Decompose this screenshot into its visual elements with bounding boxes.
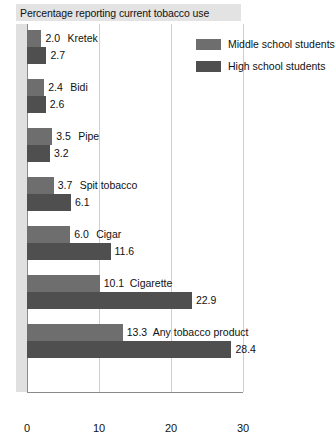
- bar-value-high-school: 2.6: [50, 96, 65, 113]
- category-label: Cigarette: [130, 275, 173, 292]
- category-label: Any tobacco product: [153, 324, 249, 341]
- bar-group: 10.122.9Cigarette: [27, 275, 321, 309]
- x-tick-label-0: 0: [24, 422, 30, 434]
- bar-value-high-school: 28.4: [235, 341, 255, 358]
- bar-value-middle-school: 2.4: [48, 79, 63, 96]
- bar-high-school: [27, 194, 71, 211]
- plot-area: 2.02.7Kretek2.42.6Bidi3.53.2Pipe3.76.1Sp…: [0, 24, 321, 394]
- bar-value-middle-school: 6.0: [74, 226, 89, 243]
- bar-value-middle-school: 13.3: [127, 324, 147, 341]
- legend-label-high-school: High school students: [228, 58, 325, 75]
- bar-high-school: [27, 47, 46, 64]
- bar-middle-school: [27, 324, 123, 341]
- bar-value-middle-school: 3.5: [56, 128, 71, 145]
- bar-value-middle-school: 3.7: [58, 177, 73, 194]
- bar-high-school: [27, 243, 111, 260]
- bar-middle-school: [27, 30, 41, 47]
- bar-value-high-school: 2.7: [50, 47, 65, 64]
- page-title: Percentage reporting current tobacco use: [16, 7, 209, 19]
- legend-label-middle-school: Middle school students: [228, 36, 335, 53]
- bar-high-school: [27, 96, 46, 113]
- bar-value-high-school: 11.6: [115, 243, 135, 260]
- bar-middle-school: [27, 226, 70, 243]
- category-label: Cigar: [96, 226, 121, 243]
- bar-high-school: [27, 292, 192, 309]
- bar-group: 13.328.4Any tobacco product: [27, 324, 321, 358]
- bar-middle-school: [27, 177, 54, 194]
- bar-value-high-school: 6.1: [75, 194, 90, 211]
- bar-group: 3.53.2Pipe: [27, 128, 321, 162]
- bar-group: 3.76.1Spit tobacco: [27, 177, 321, 211]
- category-label: Spit tobacco: [80, 177, 138, 194]
- category-label: Pipe: [78, 128, 99, 145]
- x-tick-label-20: 20: [165, 422, 177, 434]
- bar-high-school: [27, 145, 50, 162]
- legend-swatch-icon-high-school: [196, 61, 221, 72]
- x-tick-label-10: 10: [93, 422, 105, 434]
- axis-background-strip: [16, 24, 27, 392]
- bar-value-high-school: 3.2: [54, 145, 69, 162]
- bar-middle-school: [27, 128, 52, 145]
- x-axis-line: [27, 392, 243, 393]
- bar-middle-school: [27, 79, 44, 96]
- bar-middle-school: [27, 275, 100, 292]
- x-tick-label-30: 30: [237, 422, 249, 434]
- bar-value-middle-school: 2.0: [45, 30, 60, 47]
- bar-value-high-school: 22.9: [196, 292, 216, 309]
- legend-swatch-icon-middle-school: [196, 39, 221, 50]
- category-label: Bidi: [70, 79, 88, 96]
- bar-group: 2.42.6Bidi: [27, 79, 321, 113]
- category-label: Kretek: [67, 30, 97, 47]
- chart-title-band: Percentage reporting current tobacco use: [16, 4, 241, 21]
- bar-value-middle-school: 10.1: [104, 275, 124, 292]
- bar-high-school: [27, 341, 231, 358]
- bar-group: 6.011.6Cigar: [27, 226, 321, 260]
